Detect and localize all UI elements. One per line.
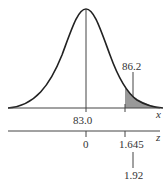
x-axis-label: x [155, 108, 161, 120]
z-zero-label: 0 [83, 138, 89, 150]
shaded-tail-region [125, 88, 157, 108]
z-observed-label: 1.92 [124, 169, 143, 181]
observed-value-label: 86.2 [122, 60, 141, 72]
normal-curve-diagram: 86.2 x 83.0 z 0 1.645 1.92 [0, 0, 167, 181]
z-axis-label: z [155, 131, 161, 143]
mean-label: 83.0 [73, 114, 93, 126]
z-critical-label: 1.645 [119, 138, 144, 150]
